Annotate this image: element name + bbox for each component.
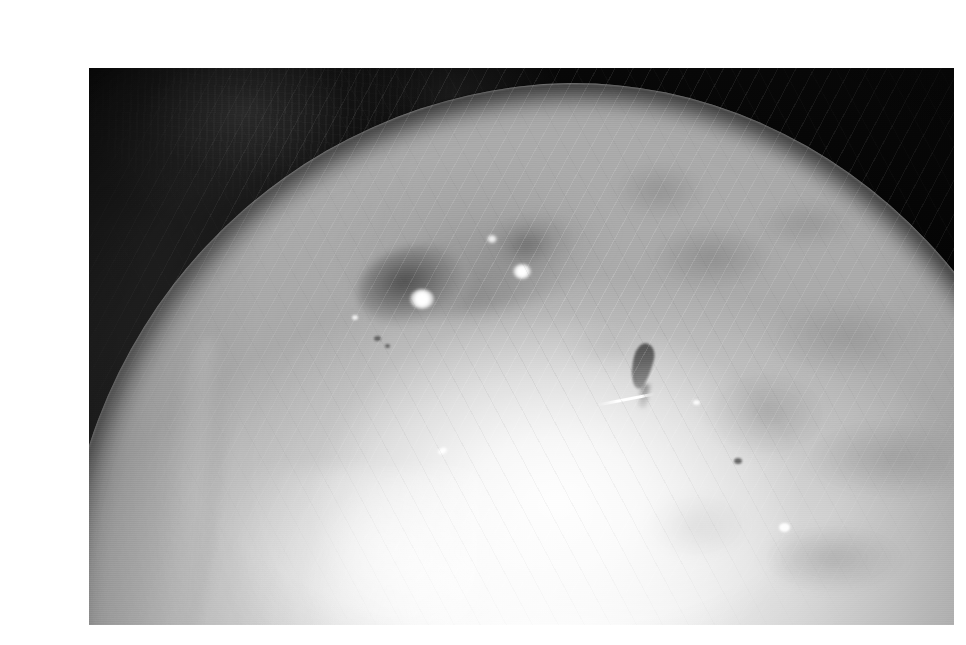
page-canvas: Grayscale underwater photograph of the b… <box>0 0 966 645</box>
photograph: Grayscale underwater photograph of the b… <box>89 68 954 625</box>
photo-vignette <box>89 68 954 625</box>
